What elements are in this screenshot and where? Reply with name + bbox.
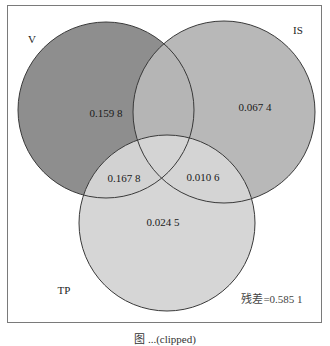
- value-v-only: 0.159 8: [90, 108, 123, 119]
- set-label-v: V: [28, 34, 36, 45]
- value-is-tp: 0.010 6: [187, 172, 220, 183]
- residual-label: 残差=0.585 1: [241, 294, 302, 305]
- figure-caption: 图 ...(clipped): [134, 330, 196, 346]
- value-is-only: 0.067 4: [239, 102, 272, 113]
- value-v-tp: 0.167 8: [108, 173, 141, 184]
- set-label-tp: TP: [58, 285, 71, 296]
- set-label-is: IS: [293, 25, 303, 36]
- value-tp-only: 0.024 5: [147, 217, 180, 228]
